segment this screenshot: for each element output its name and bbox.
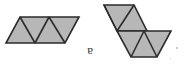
right-strip-lower-outline (117, 31, 171, 57)
figure-label-a: a (84, 43, 96, 61)
left-parallelogram-strip (6, 17, 79, 43)
triangle-figures-canvas (0, 0, 184, 74)
scan-speck-lower-right (170, 58, 171, 59)
scan-speck-right (176, 47, 178, 49)
right-bent-strip (104, 5, 171, 57)
